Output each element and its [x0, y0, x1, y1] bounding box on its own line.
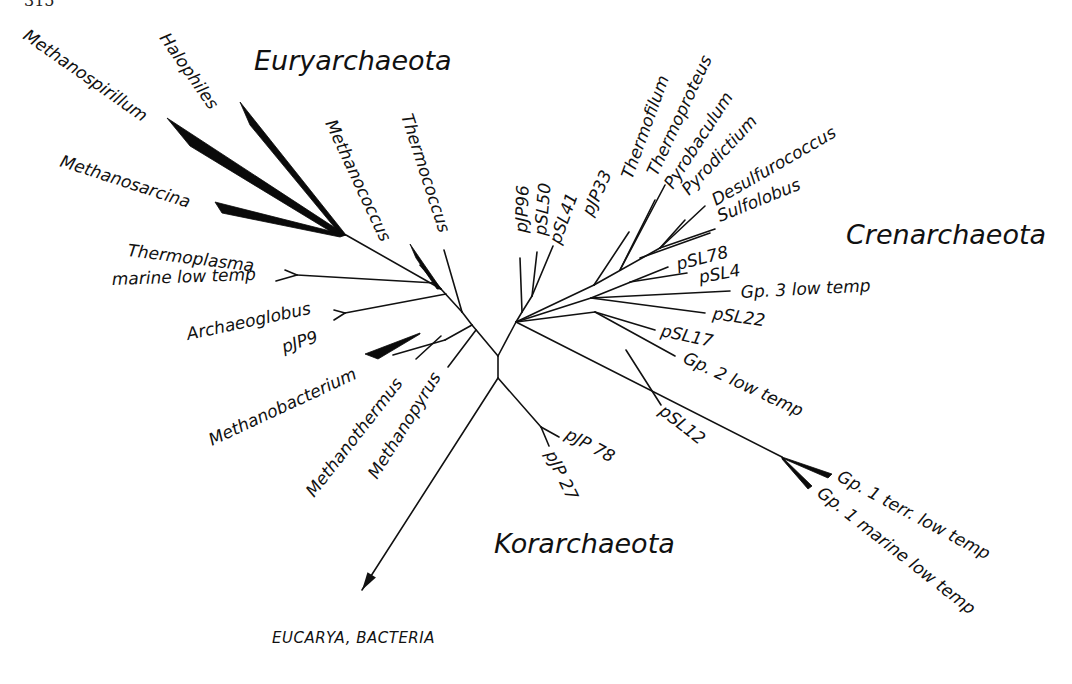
tree-branch [445, 325, 472, 340]
taxon-label-gp3: Gp. 3 low temp [740, 275, 871, 302]
taxon-label-psl17: pSL17 [658, 320, 715, 351]
tree-branch [522, 296, 532, 312]
taxon-label-methanosarcina: Methanosarcina [58, 151, 193, 212]
tree-branch [334, 310, 345, 313]
taxon-label-gp2: Gp. 2 low temp [680, 347, 806, 420]
taxon-label-thermococcus: Thermococcus [397, 111, 454, 235]
group-label-euryarchaeota: Euryarchaeota [254, 45, 452, 76]
tree-branch [630, 273, 687, 282]
tree-branch [594, 232, 629, 285]
taxon-label-pjp9: pJP9 [278, 326, 320, 357]
methanosarcina-wedge [215, 202, 346, 237]
taxon-label-pjp27: pJP 27 [541, 446, 583, 504]
phylogenetic-tree: 315 MethanospirillumHalophilesMethanosar… [0, 0, 1072, 684]
tree-branch [591, 298, 705, 313]
arrow-down-icon [362, 572, 376, 590]
outgroup-label: EUCARYA, BACTERIA [272, 629, 435, 647]
tree-branch [516, 298, 591, 322]
taxon-label-thermoplasma-marine: marine low temp [111, 264, 256, 289]
tree-branch [498, 378, 541, 427]
tree-branch [591, 291, 730, 298]
group-label-korarchaeota: Korarchaeota [494, 528, 675, 559]
tree-branch [498, 322, 516, 356]
taxon-label-halophiles: Halophiles [156, 29, 223, 113]
tree-branch [297, 275, 435, 283]
taxon-label-pjp33: pJP33 [577, 167, 616, 220]
tree-branch [285, 270, 297, 275]
page-number: 315 [24, 0, 55, 10]
tree-branch [520, 258, 522, 312]
tree-branch [334, 313, 345, 320]
taxon-label-pjp96: pJP96 [511, 185, 533, 235]
group-label-crenarchaeota: Crenarchaeota [846, 219, 1046, 250]
taxon-label-psl22: pSL22 [710, 303, 766, 330]
tree-branch [462, 312, 472, 325]
taxon-label-methanobacterium: Methanobacterium [205, 364, 359, 450]
taxon-label-methanospirillum: Methanospirillum [20, 25, 152, 126]
tree-branch [626, 350, 661, 405]
tree-branch [595, 312, 655, 330]
tree-branch [345, 294, 446, 313]
tree-branch [276, 275, 297, 281]
tree-branch [660, 206, 705, 248]
taxon-label-pjp78: pJP 78 [561, 423, 618, 466]
